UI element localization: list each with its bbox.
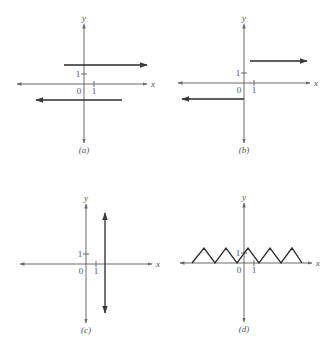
panel-caption: (a) (79, 145, 90, 155)
y-tick-label: 1 (78, 249, 83, 259)
x-axis-label: x (315, 258, 320, 268)
y-axis-label: y (81, 13, 86, 23)
y-axis-label: y (241, 13, 246, 23)
panel-b: xy011(b) (178, 13, 318, 155)
y-tick-label: 1 (76, 69, 81, 79)
origin-label: 0 (77, 86, 82, 96)
y-axis-label: y (241, 192, 246, 202)
y-axis-label: y (83, 193, 88, 203)
x-tick-label: 1 (252, 85, 257, 95)
panel-c: xy011(c) (20, 193, 160, 335)
x-axis-label: x (155, 259, 160, 269)
x-tick-label: 1 (252, 265, 257, 275)
origin-label: 0 (237, 85, 242, 95)
panel-caption: (d) (239, 324, 250, 334)
panel-caption: (c) (81, 325, 91, 335)
origin-label: 0 (237, 265, 242, 275)
triangle-wave (192, 248, 302, 263)
function-graphs-figure: xy011(a)xy011(b)xy011(c)xy011(d) (0, 0, 330, 357)
x-axis-label: x (150, 79, 155, 89)
x-tick-label: 1 (94, 266, 99, 276)
origin-label: 0 (79, 266, 84, 276)
y-tick-label: 1 (236, 68, 241, 78)
x-tick-label: 1 (92, 86, 97, 96)
panel-d: xy011(d) (180, 192, 320, 334)
panel-caption: (b) (239, 145, 250, 155)
panel-a: xy011(a) (17, 13, 155, 155)
x-axis-label: x (313, 78, 318, 88)
y-tick-label: 1 (236, 248, 241, 258)
